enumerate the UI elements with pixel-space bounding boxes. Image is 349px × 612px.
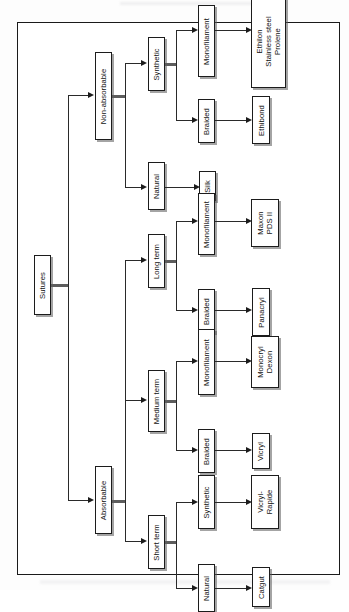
node-silk-label: Silk: [203, 180, 212, 193]
node-ethibond-label: Ethibond: [257, 105, 266, 136]
connector-absorbable-stub: [112, 500, 126, 503]
node-natural-short-term[interactable]: Natural: [198, 564, 215, 612]
node-braided-long-term[interactable]: Braided: [198, 289, 215, 333]
connector-long-term-spine: [176, 221, 177, 311]
node-natural-nonabsorbable-label: Natural: [152, 173, 161, 198]
node-braided-medium-term-label: Braided: [202, 438, 211, 465]
node-medium-term[interactable]: Medium term: [148, 370, 165, 432]
node-maxon-pds[interactable]: Maxon PDS II: [251, 199, 279, 247]
connector-braided-medium-to-vicryl: [215, 450, 250, 451]
node-ethilon-group[interactable]: Ethilon Stainless steel Prolene: [251, 0, 286, 88]
connector-monofilament-long-to-maxon: [215, 221, 250, 222]
connector-monofilament-na-to-ethilon: [215, 30, 250, 31]
connector-root-spine: [68, 95, 69, 501]
node-synthetic-short-term[interactable]: Synthetic: [198, 475, 215, 529]
node-vicryl[interactable]: Vicryl: [252, 433, 270, 469]
scan-artifact-top: [120, 2, 270, 5]
scan-artifact-bottom: [40, 580, 330, 584]
node-short-term[interactable]: Short term: [148, 515, 165, 569]
connector-root-to-absorbable: [68, 500, 90, 501]
node-short-term-label: Short term: [152, 524, 161, 560]
node-vicryl-label: Vicryl: [257, 441, 266, 460]
connector-synthetic-short-to-vicryl-rapide: [215, 502, 250, 503]
connector-nonabsorbable-spine: [125, 63, 126, 188]
node-ethilon-group-label: Ethilon Stainless steel Prolene: [255, 16, 282, 66]
node-panacryl-label: Panacryl: [257, 297, 266, 327]
arrowhead-absorbable-to-short-term: [141, 538, 147, 544]
connector-synthetic-na-spine: [176, 30, 177, 121]
connector-nonabsorbable-stub: [112, 95, 126, 98]
arrowhead-nonabsorbable-to-natural: [141, 184, 147, 190]
arrowhead-absorbable-to-medium-term: [141, 397, 147, 403]
node-synthetic-nonabsorbable-label: Synthetic: [152, 48, 161, 80]
node-monofilament-medium-term-label: Monofilament: [202, 339, 211, 386]
node-natural-nonabsorbable[interactable]: Natural: [148, 162, 165, 210]
connector-root-to-nonabsorbable: [68, 95, 90, 96]
connector-root-stub: [51, 284, 69, 287]
node-monocryl-dexon[interactable]: Monocryl Dexon: [251, 336, 279, 388]
connector-braided-na-to-ethibond: [215, 120, 250, 121]
node-ethibond[interactable]: Ethibond: [252, 96, 270, 144]
node-absorbable[interactable]: Absorbable: [95, 466, 112, 534]
connector-medium-term-spine: [176, 361, 177, 451]
arrowhead-nonabsorbable-to-synthetic: [141, 60, 147, 66]
node-maxon-pds-label: Maxon PDS II: [256, 211, 274, 234]
arrowhead-absorbable-to-long-term: [141, 257, 147, 263]
node-non-absorbable[interactable]: Non-absorbable: [95, 52, 112, 140]
node-monofilament-nonabsorbable[interactable]: Monofilament: [198, 5, 215, 77]
node-absorbable-label: Absorbable: [99, 480, 108, 519]
node-monocryl-dexon-label: Monocryl Dexon: [256, 346, 274, 378]
node-synthetic-short-term-label: Synthetic: [202, 486, 211, 518]
figure-frame: Sutures Non-absorbable Synthetic: [17, 22, 340, 575]
node-braided-nonabsorbable[interactable]: Braided: [198, 99, 215, 143]
node-monofilament-long-term-label: Monofilament: [202, 201, 211, 248]
node-synthetic-nonabsorbable[interactable]: Synthetic: [148, 37, 165, 91]
node-braided-nonabsorbable-label: Braided: [202, 108, 211, 135]
node-catgut-label: Catgut: [257, 576, 266, 599]
node-medium-term-label: Medium term: [152, 378, 161, 423]
node-long-term[interactable]: Long term: [148, 234, 165, 288]
node-vicryl-rapide-label: Vicryl- Rapide: [256, 490, 274, 515]
node-long-term-label: Long term: [152, 243, 161, 278]
node-sutures[interactable]: Sutures: [34, 255, 51, 315]
node-braided-long-term-label: Braided: [202, 298, 211, 325]
node-natural-short-term-label: Natural: [202, 575, 211, 600]
connector-braided-long-to-panacryl: [215, 310, 250, 311]
node-monofilament-nonabsorbable-label: Monofilament: [202, 18, 211, 65]
connector-short-term-spine: [176, 502, 177, 589]
connector-natural-short-to-catgut: [215, 588, 250, 589]
node-sutures-label: Sutures: [38, 272, 47, 299]
node-braided-medium-term[interactable]: Braided: [198, 429, 215, 473]
node-catgut[interactable]: Catgut: [252, 567, 270, 607]
connector-monofilament-medium-to-monocryl: [215, 361, 250, 362]
node-vicryl-rapide[interactable]: Vicryl- Rapide: [251, 475, 279, 529]
arrowhead-root-to-nonabsorbable: [88, 92, 94, 98]
arrowhead-root-to-absorbable: [88, 497, 94, 503]
node-panacryl[interactable]: Panacryl: [252, 288, 270, 336]
node-monofilament-long-term[interactable]: Monofilament: [198, 193, 215, 255]
node-monofilament-medium-term[interactable]: Monofilament: [198, 329, 215, 395]
node-non-absorbable-label: Non-absorbable: [99, 68, 108, 123]
